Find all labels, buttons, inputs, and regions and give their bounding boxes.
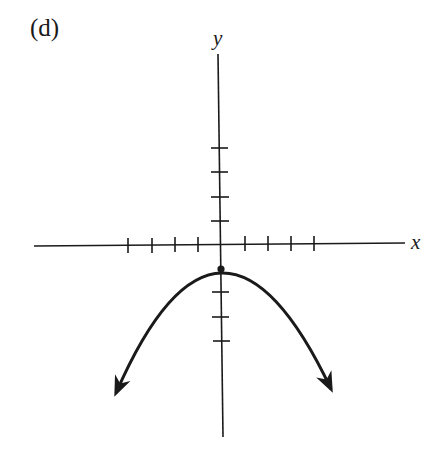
parabola-curve xyxy=(116,273,331,393)
x-axis xyxy=(34,243,405,246)
graph xyxy=(0,0,447,459)
vertex-point xyxy=(217,265,224,272)
y-axis xyxy=(218,54,223,437)
